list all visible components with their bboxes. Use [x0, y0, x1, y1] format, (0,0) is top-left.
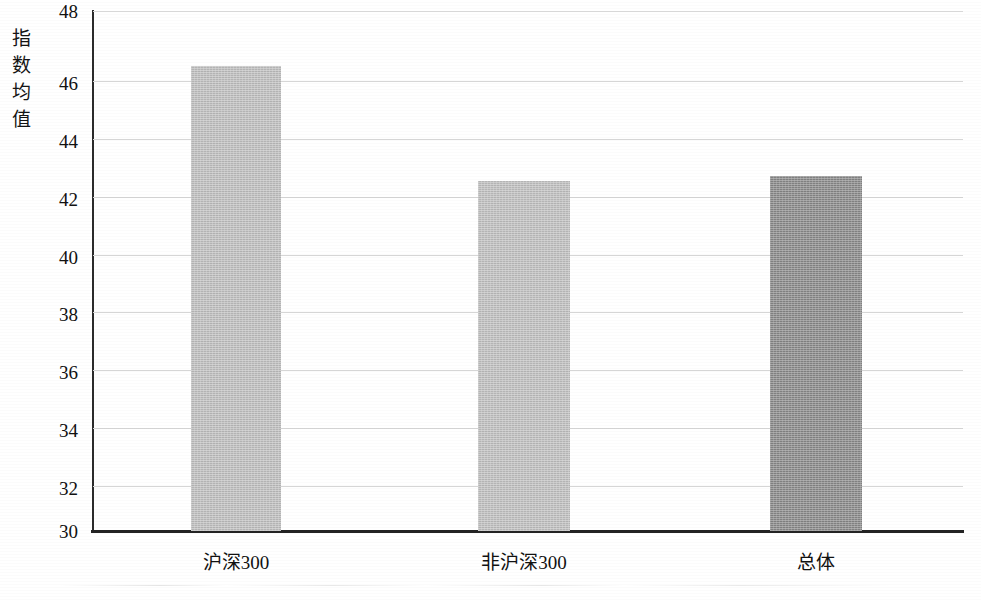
bar-texture — [770, 176, 862, 531]
y-tick-label: 44 — [24, 131, 78, 153]
y-tick-label: 48 — [24, 1, 78, 23]
bar-zongti — [770, 176, 862, 531]
bar-chart: 指 数 均 值 48 46 44 42 40 38 36 34 32 30 — [0, 0, 981, 600]
y-tick-label: 36 — [24, 362, 78, 384]
gridline-48 — [93, 11, 963, 12]
y-tick-label: 40 — [24, 247, 78, 269]
scan-artifact-line — [60, 585, 890, 586]
y-tick-label: 42 — [24, 189, 78, 211]
bar-fei-hushen300 — [478, 181, 570, 531]
plot-area — [92, 11, 963, 531]
y-tick-label: 30 — [24, 521, 78, 543]
y-axis-line — [92, 10, 94, 532]
y-tick-label: 38 — [24, 304, 78, 326]
bar-hushen300 — [191, 66, 281, 531]
y-axis-title-char: 值 — [6, 107, 36, 134]
y-tick-label: 34 — [24, 420, 78, 442]
y-tick-label: 32 — [24, 478, 78, 500]
bar-texture — [191, 66, 281, 531]
x-tick-label-hushen300: 沪深300 — [176, 547, 296, 574]
x-tick-label-fei-hushen300: 非沪深300 — [464, 547, 584, 574]
y-tick-label: 46 — [24, 73, 78, 95]
x-tick-label-zongti: 总体 — [756, 547, 876, 574]
y-axis-title-char: 指 — [6, 26, 36, 53]
bar-texture — [478, 181, 570, 531]
